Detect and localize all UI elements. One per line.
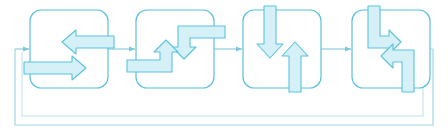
stage-4[interactable] [352, 6, 430, 92]
stage-2[interactable] [127, 10, 225, 88]
stage-1-box[interactable] [30, 10, 108, 88]
stage-1[interactable] [24, 10, 114, 88]
stage-3-box[interactable] [243, 10, 321, 88]
stage-3[interactable] [243, 6, 321, 92]
process-flow-diagram [0, 0, 448, 137]
diagram-canvas [0, 0, 448, 137]
